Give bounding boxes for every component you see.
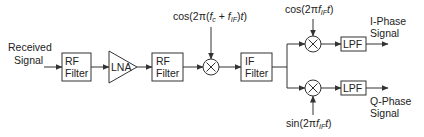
svg-text:LPF: LPF — [343, 82, 362, 94]
q-lo-label: sin(2πfIFt) — [286, 117, 332, 130]
svg-text:Signal: Signal — [14, 54, 43, 66]
q-lpf-block: LPF — [341, 81, 366, 95]
q-phase-signal-label: Q-Phase Signal — [370, 95, 412, 119]
svg-text:I-Phase: I-Phase — [370, 15, 406, 27]
if-filter-block: IF Filter — [241, 53, 272, 81]
received-signal-label: Received Signal — [8, 41, 52, 66]
i-lpf-block: LPF — [341, 37, 366, 51]
rf-lo-label: cos(2π(fc + fIF)t) — [173, 10, 247, 23]
q-mixer — [305, 80, 321, 96]
rf-mixer — [203, 59, 219, 75]
i-lo-label: cos(2πfIFt) — [285, 3, 334, 16]
svg-text:Signal: Signal — [370, 27, 399, 39]
receiver-block-diagram: Received Signal RF Filter LNA RF Filter … — [0, 0, 424, 137]
if-split-lines — [272, 44, 305, 88]
svg-text:Filter: Filter — [65, 67, 89, 79]
svg-text:LPF: LPF — [343, 38, 362, 50]
svg-text:Filter: Filter — [156, 67, 180, 79]
svg-text:Received: Received — [8, 41, 52, 53]
i-phase-signal-label: I-Phase Signal — [370, 15, 406, 39]
svg-text:IF: IF — [245, 55, 254, 67]
svg-text:Filter: Filter — [245, 67, 269, 79]
svg-text:Signal: Signal — [370, 107, 399, 119]
rf-filter-2-block: RF Filter — [152, 53, 183, 81]
svg-text:RF: RF — [65, 55, 79, 67]
i-mixer — [305, 36, 321, 52]
svg-text:LNA: LNA — [111, 61, 131, 73]
rf-filter-1-block: RF Filter — [62, 53, 91, 81]
lna-amplifier-block: LNA — [109, 51, 137, 83]
svg-text:RF: RF — [156, 55, 170, 67]
svg-text:Q-Phase: Q-Phase — [370, 95, 412, 107]
